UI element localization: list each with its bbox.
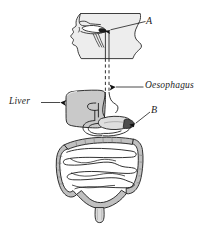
sigmoid-colon: [77, 190, 127, 208]
small-intestine-coil-2: [67, 162, 136, 180]
head-section-group: [71, 14, 142, 59]
rectum: [95, 208, 104, 223]
diagram-artwork: [0, 0, 215, 231]
ascending-colon: [56, 145, 76, 197]
small-intestine: [63, 148, 136, 189]
label-b-leader: [129, 112, 150, 127]
label-b: B: [151, 105, 157, 115]
head-neck-outline: [71, 14, 142, 59]
duodenum-horizontal-inner: [103, 131, 121, 134]
label-liver-leader: [41, 100, 66, 106]
label-liver: Liver: [9, 97, 30, 107]
pylorus-marker: [123, 119, 134, 128]
descending-colon: [126, 139, 143, 194]
transverse-colon: [64, 137, 133, 149]
label-a: A: [146, 16, 152, 26]
digestive-system-diagram: A Oesophagus Liver B: [0, 0, 215, 231]
label-oesophagus-leader: [109, 85, 143, 91]
label-oesophagus: Oesophagus: [145, 81, 194, 91]
oesophagus-dashed-tube: [105, 59, 109, 92]
cardia-wall-outer: [109, 92, 118, 113]
large-intestine: [56, 137, 143, 222]
